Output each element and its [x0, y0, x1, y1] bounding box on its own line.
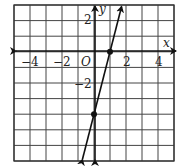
origin-label: O — [81, 55, 91, 69]
x-tick-label: −2 — [53, 55, 71, 69]
point-y-intercept — [91, 111, 97, 117]
grid — [14, 5, 174, 161]
x-tick-label: 4 — [155, 55, 163, 69]
x-tick-label: 2 — [123, 55, 131, 69]
x-tick-label: −4 — [21, 55, 39, 69]
x-axis-label: x — [163, 36, 170, 50]
y-axis-label: y — [98, 2, 106, 16]
coordinate-plane: x y O −4 −2 2 4 2 −2 — [0, 0, 182, 168]
point-x-intercept — [107, 49, 113, 55]
y-tick-label: −2 — [74, 77, 92, 91]
y-tick-label: 2 — [84, 13, 92, 27]
